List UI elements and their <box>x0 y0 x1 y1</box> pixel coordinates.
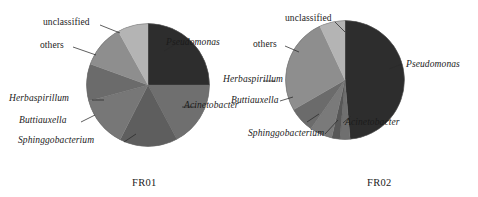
label-herbaspirillum-fr02: Herbaspirillum <box>223 75 283 85</box>
figure-pie-comparison: unclassified others Herbaspirillum Butti… <box>0 0 478 197</box>
label-herbaspirillum-fr01: Herbaspirillum <box>9 94 69 104</box>
label-unclassified-fr02: unclassified <box>285 14 332 24</box>
label-buttiauxella-fr02: Buttiauxella <box>231 96 279 106</box>
label-pseudomonas-fr01: Pseudomonas <box>166 38 220 48</box>
panel-fr02: unclassified others Acinetobacter Herbas… <box>239 0 478 197</box>
label-acinetobacter-fr02: Acinetobacter <box>345 118 400 128</box>
panel-fr01: unclassified others Herbaspirillum Butti… <box>0 0 239 197</box>
pie-slice <box>148 24 210 86</box>
label-unclassified-fr01: unclassified <box>43 18 90 28</box>
label-sphinggobacterium-fr01: Sphinggobacterium <box>18 136 94 146</box>
label-others-fr01: others <box>40 41 64 51</box>
label-pseudomonas-fr02: Pseudomonas <box>406 60 460 70</box>
label-others-fr02: others <box>253 40 277 50</box>
label-buttiauxella-fr01: Buttiauxella <box>19 116 67 126</box>
caption-fr02: FR02 <box>367 177 392 188</box>
caption-fr01: FR01 <box>132 177 157 188</box>
label-sphinggobacterium-fr02: Sphinggobacterium <box>248 129 324 139</box>
